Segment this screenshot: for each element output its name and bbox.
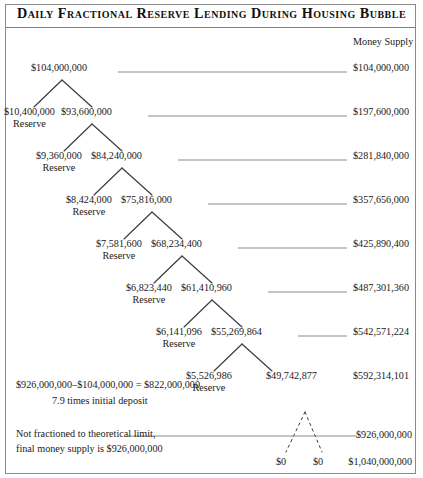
diagram-page: Daily Fractional Reserve Lending During … [0, 0, 423, 478]
reserve-label-2: Reserve [4, 118, 55, 130]
reserve-amount-2: $10,400,000 [4, 106, 55, 117]
node-loan-2: $93,600,000 [61, 106, 112, 118]
reserve-amount-4: $8,424,000 [66, 194, 112, 205]
reserve-amount-3: $9,360,000 [36, 150, 82, 161]
money-supply-theoretical-limit: $1,040,000,000 [297, 456, 412, 467]
reserve-label-6: Reserve [126, 294, 172, 306]
node-reserve-4: $8,424,000 Reserve [66, 194, 112, 217]
node-loan-1: $104,000,000 [31, 62, 87, 74]
note-multiple: 7.9 times initial deposit [52, 393, 148, 408]
money-supply-6: $487,301,360 [353, 282, 409, 293]
money-supply-8: $592,314,101 [353, 370, 409, 381]
note-limit-line-2: final money supply is $926,000,000 [16, 441, 163, 456]
money-supply-5: $425,890,400 [353, 238, 409, 249]
money-supply-2: $197,600,000 [353, 106, 409, 117]
node-loan-6: $61,410,960 [181, 282, 232, 294]
reserve-amount-6: $6,823,440 [126, 282, 172, 293]
money-supply-column-header: Money Supply [353, 36, 413, 47]
node-reserve-7: $6,141,096 Reserve [156, 326, 202, 349]
node-loan-8: $49,742,877 [266, 370, 317, 382]
money-supply-7: $542,571,224 [353, 326, 409, 337]
reserve-amount-7: $6,141,096 [156, 326, 202, 337]
node-loan-7: $55,269,864 [211, 326, 262, 338]
money-supply-4: $357,656,000 [353, 194, 409, 205]
node-loan-4: $75,816,000 [121, 194, 172, 206]
node-reserve-5: $7,581,600 Reserve [96, 238, 142, 261]
money-supply-1: $104,000,000 [353, 62, 409, 73]
node-loan-3: $84,240,000 [91, 150, 142, 162]
node-reserve-6: $6,823,440 Reserve [126, 282, 172, 305]
terminal-zero-left: $0 [276, 456, 286, 467]
reserve-label-7: Reserve [156, 338, 202, 350]
node-loan-5: $68,234,400 [151, 238, 202, 250]
reserve-label-5: Reserve [96, 250, 142, 262]
node-reserve-2: $10,400,000 Reserve [4, 106, 55, 129]
money-supply-final-actual: $926,000,000 [297, 429, 412, 440]
reserve-amount-5: $7,581,600 [96, 238, 142, 249]
note-calculation: $926,000,000–$104,000,000 = $822,000,000 [16, 377, 200, 392]
note-limit-line-1: Not fractioned to theoretical limit, [16, 426, 155, 441]
reserve-label-3: Reserve [36, 162, 82, 174]
page-title: Daily Fractional Reserve Lending During … [0, 5, 423, 22]
reserve-label-4: Reserve [66, 206, 112, 218]
money-supply-3: $281,840,000 [353, 150, 409, 161]
node-reserve-3: $9,360,000 Reserve [36, 150, 82, 173]
title-divider [6, 27, 415, 28]
